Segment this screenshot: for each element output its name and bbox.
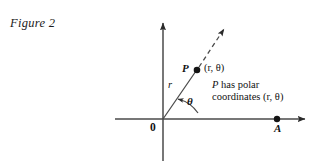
polar-coordinates-annotation: P has polar coordinates (r, θ) [212,79,283,104]
annotation-line-2-coords: (r, θ) [263,91,283,102]
point-p-label: P [182,62,189,75]
annotation-line-2-prefix: coordinates [212,91,263,102]
theta-angle-label: θ [187,95,193,108]
annotation-line-1-rest: has polar [218,79,259,90]
point-p-coordinates-label: (r, θ) [204,62,224,74]
point-p-dot [194,67,201,74]
figure-caption: Figure 2 [10,16,55,31]
annotation-line-2: coordinates (r, θ) [212,91,283,103]
annotation-line-1: P has polar [212,79,283,91]
radius-length-label: r [168,79,172,91]
figure-container: Figure 2 0 P (r, θ) A r θ P has polar co… [0,0,328,164]
point-a-label: A [274,122,281,135]
origin-label: 0 [150,121,156,135]
